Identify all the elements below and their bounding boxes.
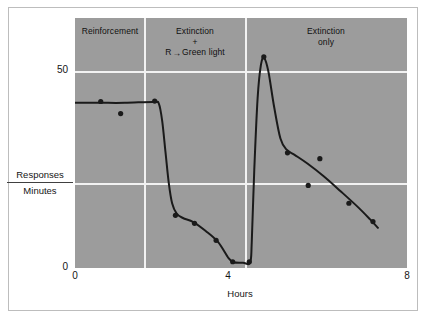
figure-container: 50 0 Responses Minutes 0 4 8 Hours Reinf… bbox=[0, 0, 429, 324]
x-axis-tick-8: 8 bbox=[397, 270, 417, 281]
data-point-marker bbox=[214, 238, 219, 243]
data-point-marker bbox=[317, 156, 322, 161]
data-point-marker bbox=[285, 150, 290, 155]
response-rate-plot bbox=[75, 18, 407, 268]
data-point-marker bbox=[192, 221, 197, 226]
data-point-marker bbox=[173, 213, 178, 218]
data-point-marker bbox=[230, 259, 235, 264]
y-axis-title-denominator: Minutes bbox=[6, 184, 74, 197]
plot-area: Reinforcement Extinction + R→Green light… bbox=[75, 18, 407, 268]
y-axis-title-numerator: Responses bbox=[6, 169, 74, 182]
data-point-marker bbox=[98, 99, 103, 104]
y-axis-tick-0: 0 bbox=[28, 261, 68, 272]
fraction-divider bbox=[7, 182, 73, 183]
data-point-marker bbox=[370, 219, 375, 224]
x-axis-tick-0: 0 bbox=[65, 270, 85, 281]
data-point-marker bbox=[306, 183, 311, 188]
data-point-marker bbox=[261, 54, 266, 59]
x-axis-tick-4: 4 bbox=[218, 270, 238, 281]
y-axis-title: Responses Minutes bbox=[6, 169, 74, 197]
data-point-marker bbox=[152, 98, 157, 103]
data-point-marker bbox=[118, 111, 123, 116]
data-point-markers bbox=[98, 54, 375, 264]
data-point-marker bbox=[247, 259, 252, 264]
x-axis-title: Hours bbox=[180, 288, 300, 299]
response-rate-curve bbox=[75, 58, 378, 264]
y-axis-tick-50: 50 bbox=[28, 64, 68, 75]
data-point-marker bbox=[346, 201, 351, 206]
